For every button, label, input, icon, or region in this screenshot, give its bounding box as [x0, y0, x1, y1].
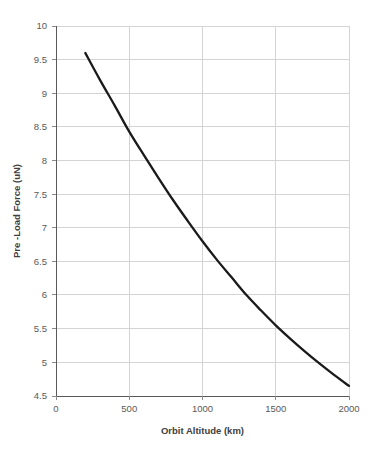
y-tick-label: 9.5 [34, 54, 47, 65]
x-tick-label: 1500 [265, 403, 286, 414]
y-tick-label: 9 [42, 88, 47, 99]
y-tick-label: 7.5 [34, 189, 47, 200]
y-tick-label: 8 [42, 155, 47, 166]
y-tick-label: 7 [42, 222, 47, 233]
line-chart-canvas: 10 9.5 9 8.5 8 7.5 7 6.5 6 5.5 5 4.5 0 5… [0, 0, 376, 453]
y-axis-title: Pre -Load Force (uN) [11, 164, 22, 258]
chart-figure: 10 9.5 9 8.5 8 7.5 7 6.5 6 5.5 5 4.5 0 5… [0, 0, 376, 453]
x-tick-label: 0 [53, 403, 58, 414]
y-tick-label: 6.5 [34, 256, 47, 267]
x-tick-label: 1000 [192, 403, 213, 414]
y-tick-label: 5 [42, 357, 47, 368]
y-tick-label: 5.5 [34, 323, 47, 334]
y-tick-label: 10 [36, 20, 47, 31]
x-axis-title: Orbit Altitude (km) [161, 425, 244, 436]
x-tick-label: 2000 [338, 403, 359, 414]
y-tick-labels: 10 9.5 9 8.5 8 7.5 7 6.5 6 5.5 5 4.5 [34, 20, 47, 401]
y-tick-label: 6 [42, 289, 47, 300]
x-tick-label: 500 [121, 403, 137, 414]
y-tick-label: 8.5 [34, 121, 47, 132]
x-tick-labels: 0 500 1000 1500 2000 [53, 403, 359, 414]
y-tickmarks [52, 26, 56, 396]
y-tick-label: 4.5 [34, 390, 47, 401]
